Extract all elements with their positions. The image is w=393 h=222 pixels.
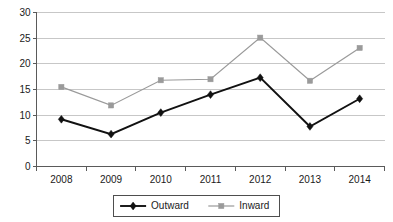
y-axis-tick-label: 10 [19,110,31,121]
y-axis-tick-label: 15 [19,84,31,95]
x-axis-tick-label: 2014 [349,174,372,185]
series-line-outward [61,78,359,134]
y-axis-tick-label: 20 [19,58,31,69]
data-point-inward-2014 [357,45,362,50]
data-point-outward-2011 [207,91,213,99]
legend-marker-square-icon [219,203,224,208]
data-point-inward-2009 [108,103,113,108]
data-point-outward-2009 [108,130,114,138]
data-point-inward-2013 [307,78,312,83]
x-axis-tick-label: 2009 [100,174,123,185]
data-point-inward-2010 [158,78,163,83]
x-axis-tick-labels: 2008200920102011201220132014 [50,174,371,185]
gridlines [37,13,385,167]
x-axis-tick-label: 2012 [249,174,272,185]
series-outward [58,74,362,138]
chart-legend: OutwardInward [113,196,280,217]
chart-axes [33,13,385,171]
x-axis-tick-label: 2011 [200,174,222,185]
y-axis-tick-label: 5 [25,135,31,146]
legend-label-outward: Outward [151,200,189,211]
data-point-outward-2014 [357,95,363,103]
y-axis-tick-label: 0 [25,161,31,172]
line-chart: 051015202530 200820092010201120122013201… [0,0,393,222]
data-point-outward-2008 [58,115,64,123]
y-axis-tick-labels: 051015202530 [19,7,31,172]
legend-label-inward: Inward [239,200,269,211]
data-point-inward-2012 [258,35,263,40]
chart-canvas: 051015202530 200820092010201120122013201… [0,0,393,222]
x-axis-tick-label: 2013 [299,174,322,185]
y-axis-tick-label: 25 [19,33,31,44]
x-axis-tick-label: 2010 [150,174,173,185]
data-point-inward-2011 [208,77,213,82]
y-axis-tick-label: 30 [19,7,31,18]
x-axis-tick-label: 2008 [50,174,73,185]
data-point-inward-2008 [59,84,64,89]
data-series [58,35,362,138]
